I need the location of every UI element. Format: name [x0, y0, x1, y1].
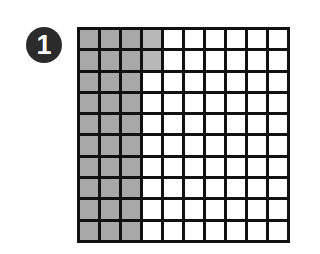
grid-cell-empty	[227, 115, 245, 133]
grid-cell-empty	[143, 200, 161, 218]
grid-cell-shaded	[101, 30, 119, 48]
grid-cell-shaded	[122, 73, 140, 91]
grid-cell-empty	[227, 73, 245, 91]
grid-cell-empty	[185, 222, 203, 240]
grid-cell-shaded	[143, 30, 161, 48]
grid-cell-empty	[269, 115, 287, 133]
grid-cell-shaded	[122, 51, 140, 69]
grid-cell-shaded	[101, 115, 119, 133]
grid-cell-shaded	[80, 200, 98, 218]
grid-cell-empty	[269, 179, 287, 197]
grid-cell-empty	[248, 73, 266, 91]
grid-cell-shaded	[101, 136, 119, 154]
grid-cell-empty	[185, 179, 203, 197]
grid-cell-empty	[164, 73, 182, 91]
grid-cell-empty	[185, 200, 203, 218]
grid-cell-empty	[269, 73, 287, 91]
grid-cell-empty	[269, 30, 287, 48]
grid-cell-shaded	[122, 222, 140, 240]
grid-cell-empty	[227, 136, 245, 154]
grid-cell-empty	[206, 30, 224, 48]
grid-cell-empty	[206, 222, 224, 240]
grid-cell-shaded	[80, 136, 98, 154]
grid-cell-shaded	[80, 179, 98, 197]
grid-cell-shaded	[101, 200, 119, 218]
grid-cell-shaded	[101, 51, 119, 69]
grid-cell-empty	[248, 158, 266, 176]
grid-cell-empty	[248, 222, 266, 240]
grid-cell-empty	[185, 73, 203, 91]
grid-cell-empty	[248, 115, 266, 133]
grid-cell-empty	[164, 179, 182, 197]
grid-cell-empty	[269, 51, 287, 69]
grid-cell-shaded	[122, 30, 140, 48]
grid-cell-shaded	[122, 136, 140, 154]
grid-cell-empty	[248, 179, 266, 197]
grid-cell-shaded	[122, 200, 140, 218]
grid-cell-empty	[248, 94, 266, 112]
grid-cell-empty	[227, 200, 245, 218]
grid-cell-empty	[164, 136, 182, 154]
grid-cell-empty	[248, 136, 266, 154]
grid-cell-empty	[227, 51, 245, 69]
grid-cell-empty	[206, 136, 224, 154]
grid-cell-empty	[185, 115, 203, 133]
number-badge: 1	[26, 27, 62, 63]
grid-cell-empty	[164, 51, 182, 69]
grid-cell-empty	[143, 158, 161, 176]
grid-cell-shaded	[101, 158, 119, 176]
grid-cell-shaded	[143, 51, 161, 69]
grid-cell-shaded	[80, 222, 98, 240]
grid-cell-shaded	[122, 179, 140, 197]
grid-cell-empty	[164, 158, 182, 176]
grid-cell-empty	[248, 200, 266, 218]
grid-cell-empty	[206, 73, 224, 91]
grid-cell-empty	[185, 51, 203, 69]
grid-cell-shaded	[101, 73, 119, 91]
grid-cell-shaded	[122, 158, 140, 176]
grid-cell-empty	[206, 158, 224, 176]
grid-cell-empty	[227, 94, 245, 112]
grid-cell-empty	[143, 94, 161, 112]
grid-cell-empty	[227, 158, 245, 176]
grid-cell-empty	[269, 94, 287, 112]
grid-cell-shaded	[80, 94, 98, 112]
grid-cell-empty	[143, 179, 161, 197]
grid-cell-shaded	[80, 73, 98, 91]
grid-cell-empty	[185, 94, 203, 112]
hundred-grid	[77, 27, 290, 243]
grid-cell-empty	[164, 30, 182, 48]
grid-cell-empty	[227, 222, 245, 240]
grid-cell-empty	[143, 73, 161, 91]
grid-cell-empty	[269, 200, 287, 218]
grid-cell-empty	[143, 222, 161, 240]
grid-cell-shaded	[101, 179, 119, 197]
grid-cell-shaded	[122, 115, 140, 133]
grid-cell-empty	[164, 94, 182, 112]
grid-cell-empty	[164, 200, 182, 218]
grid-cell-empty	[269, 158, 287, 176]
grid-cell-empty	[143, 115, 161, 133]
grid-cell-empty	[206, 94, 224, 112]
grid-cell-empty	[206, 200, 224, 218]
grid-cell-empty	[269, 136, 287, 154]
grid-cell-empty	[206, 115, 224, 133]
grid-cell-empty	[227, 30, 245, 48]
grid-cell-empty	[227, 179, 245, 197]
grid-cell-shaded	[122, 94, 140, 112]
grid-cell-shaded	[80, 51, 98, 69]
grid-cell-shaded	[101, 222, 119, 240]
grid-cell-empty	[248, 51, 266, 69]
grid-cell-empty	[185, 30, 203, 48]
grid-cell-empty	[206, 179, 224, 197]
grid-cell-empty	[164, 222, 182, 240]
grid-cell-empty	[185, 158, 203, 176]
grid-cell-empty	[269, 222, 287, 240]
grid-cell-empty	[248, 30, 266, 48]
grid-cell-shaded	[101, 94, 119, 112]
grid-cell-empty	[185, 136, 203, 154]
grid-cell-shaded	[80, 30, 98, 48]
grid-cell-shaded	[80, 115, 98, 133]
grid-cell-empty	[143, 136, 161, 154]
grid-cell-shaded	[80, 158, 98, 176]
